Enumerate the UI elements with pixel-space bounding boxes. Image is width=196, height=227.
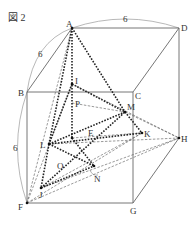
label-F: F: [18, 202, 23, 212]
vertex-dots: [26, 27, 181, 205]
thin-dashed-lines: [27, 28, 179, 203]
label-B: B: [18, 88, 24, 98]
label-L: L: [40, 140, 46, 150]
dim-AD: 6: [123, 14, 128, 24]
label-O: O: [57, 161, 64, 171]
label-M: M: [127, 102, 135, 112]
label-H: H: [181, 134, 188, 144]
arc-BF: [18, 92, 28, 203]
cube-diagram: A D B C I P M E K L O J N H F G 6 6 6: [0, 0, 196, 227]
label-C: C: [135, 91, 141, 101]
label-K: K: [144, 129, 151, 139]
label-P: P: [75, 99, 80, 109]
label-E: E: [88, 128, 94, 138]
label-G: G: [130, 206, 137, 216]
label-A: A: [66, 19, 73, 29]
dim-BF: 6: [13, 143, 18, 153]
label-D: D: [181, 23, 188, 33]
label-J: J: [39, 190, 43, 200]
label-I: I: [75, 76, 78, 86]
label-N: N: [94, 174, 101, 184]
dim-AB: 6: [38, 49, 43, 59]
